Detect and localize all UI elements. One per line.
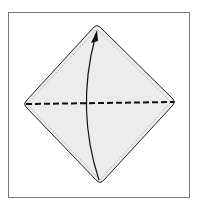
origami-diagram xyxy=(0,0,199,206)
